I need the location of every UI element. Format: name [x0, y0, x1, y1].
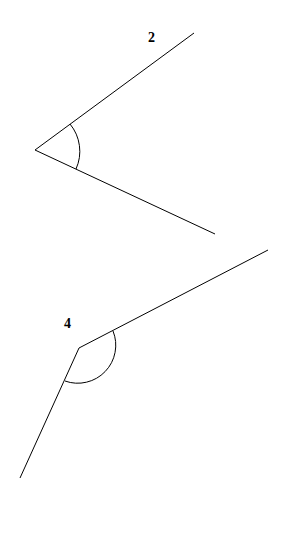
- angle-4-label: 4: [64, 316, 71, 331]
- angle-4: 4: [20, 250, 268, 478]
- angle-4-arc: [65, 331, 116, 383]
- angle-2: 2: [35, 30, 215, 234]
- angle-4-ray-lower: [20, 348, 79, 478]
- angle-diagram: 2 4: [0, 0, 283, 542]
- angle-2-ray-lower: [35, 150, 215, 234]
- angle-2-label: 2: [148, 30, 155, 45]
- angle-2-ray-upper: [35, 33, 194, 150]
- angle-2-arc: [70, 124, 80, 169]
- angle-4-ray-upper: [79, 250, 268, 348]
